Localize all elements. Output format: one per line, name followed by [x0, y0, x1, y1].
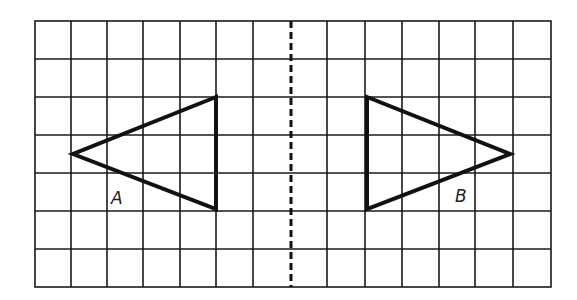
symmetry-diagram: A B: [0, 0, 577, 300]
label-b: B: [455, 186, 467, 206]
grid: [35, 21, 551, 287]
label-a: A: [110, 188, 123, 208]
triangle-a: [73, 97, 216, 209]
grid-border: [35, 21, 551, 287]
